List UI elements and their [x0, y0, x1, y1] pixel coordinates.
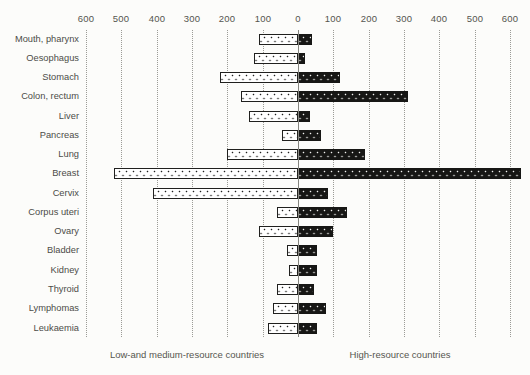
- category-label: Corpus uteri: [0, 207, 79, 218]
- bar-high-resource: [298, 130, 321, 141]
- bar-low-medium-resource: [259, 34, 298, 45]
- category-label: Leukaemia: [0, 323, 79, 334]
- bar-low-medium-resource: [153, 188, 298, 199]
- x-axis-tick-label: 200: [210, 13, 244, 24]
- bar-low-medium-resource: [114, 168, 298, 179]
- zero-axis-line: [298, 30, 299, 337]
- bar-low-medium-resource: [277, 284, 298, 295]
- bar-low-medium-resource: [227, 149, 298, 160]
- bar-high-resource: [298, 245, 317, 256]
- bar-high-resource: [298, 284, 314, 295]
- category-label: Breast: [0, 168, 79, 179]
- bar-high-resource: [298, 72, 340, 83]
- category-label: Cervix: [0, 188, 79, 199]
- grid-line: [475, 30, 476, 337]
- x-axis-tick-label: 300: [387, 13, 421, 24]
- bar-low-medium-resource: [289, 265, 298, 276]
- bar-low-medium-resource: [287, 245, 298, 256]
- bar-high-resource: [298, 91, 408, 102]
- bar-low-medium-resource: [277, 207, 298, 218]
- bar-high-resource: [298, 323, 317, 334]
- bar-low-medium-resource: [273, 303, 298, 314]
- x-axis-tick-label: 400: [422, 13, 456, 24]
- category-label: Thyroid: [0, 284, 79, 295]
- bar-low-medium-resource: [268, 323, 298, 334]
- x-axis-tick-label: 300: [175, 13, 209, 24]
- x-axis-tick-label: 500: [458, 13, 492, 24]
- x-axis-tick-label: 600: [69, 13, 103, 24]
- category-label: Ovary: [0, 226, 79, 237]
- category-label: Liver: [0, 111, 79, 122]
- category-label: Mouth, pharynx: [0, 34, 79, 45]
- category-label: Stomach: [0, 72, 79, 83]
- grid-line: [369, 30, 370, 337]
- category-label: Bladder: [0, 245, 79, 256]
- category-label: Oesophagus: [0, 53, 79, 64]
- grid-line: [157, 30, 158, 337]
- bar-high-resource: [298, 207, 347, 218]
- bar-high-resource: [298, 34, 312, 45]
- bar-high-resource: [298, 265, 317, 276]
- legend-high-resource: High-resource countries: [330, 349, 470, 360]
- bar-low-medium-resource: [249, 111, 298, 122]
- bar-high-resource: [298, 226, 333, 237]
- bar-low-medium-resource: [241, 91, 298, 102]
- grid-line: [121, 30, 122, 337]
- x-axis-tick-label: 0: [281, 13, 315, 24]
- bar-high-resource: [298, 53, 305, 64]
- bar-low-medium-resource: [220, 72, 298, 83]
- bar-high-resource: [298, 303, 326, 314]
- bar-high-resource: [298, 188, 328, 199]
- category-label: Pancreas: [0, 130, 79, 141]
- x-axis-tick-label: 400: [140, 13, 174, 24]
- cancer-incidence-chart: 6005004003002001000100200300400500600 Mo…: [0, 0, 530, 375]
- x-axis-tick-label: 600: [493, 13, 527, 24]
- x-axis-tick-label: 100: [316, 13, 350, 24]
- category-label: Kidney: [0, 265, 79, 276]
- grid-line: [404, 30, 405, 337]
- category-label: Colon, rectum: [0, 91, 79, 102]
- grid-line: [192, 30, 193, 337]
- grid-line: [439, 30, 440, 337]
- bar-low-medium-resource: [259, 226, 298, 237]
- x-axis-tick-label: 200: [352, 13, 386, 24]
- grid-line: [510, 30, 511, 337]
- x-axis-tick-label: 500: [104, 13, 138, 24]
- x-axis-tick-label: 100: [246, 13, 280, 24]
- bar-high-resource: [298, 111, 310, 122]
- grid-line: [86, 30, 87, 337]
- category-label: Lung: [0, 149, 79, 160]
- bar-low-medium-resource: [254, 53, 298, 64]
- bar-low-medium-resource: [282, 130, 298, 141]
- category-label: Lymphomas: [0, 303, 79, 314]
- legend-low-medium-resource: Low-and medium-resource countries: [89, 349, 285, 360]
- bar-high-resource: [298, 149, 365, 160]
- bar-high-resource: [298, 168, 521, 179]
